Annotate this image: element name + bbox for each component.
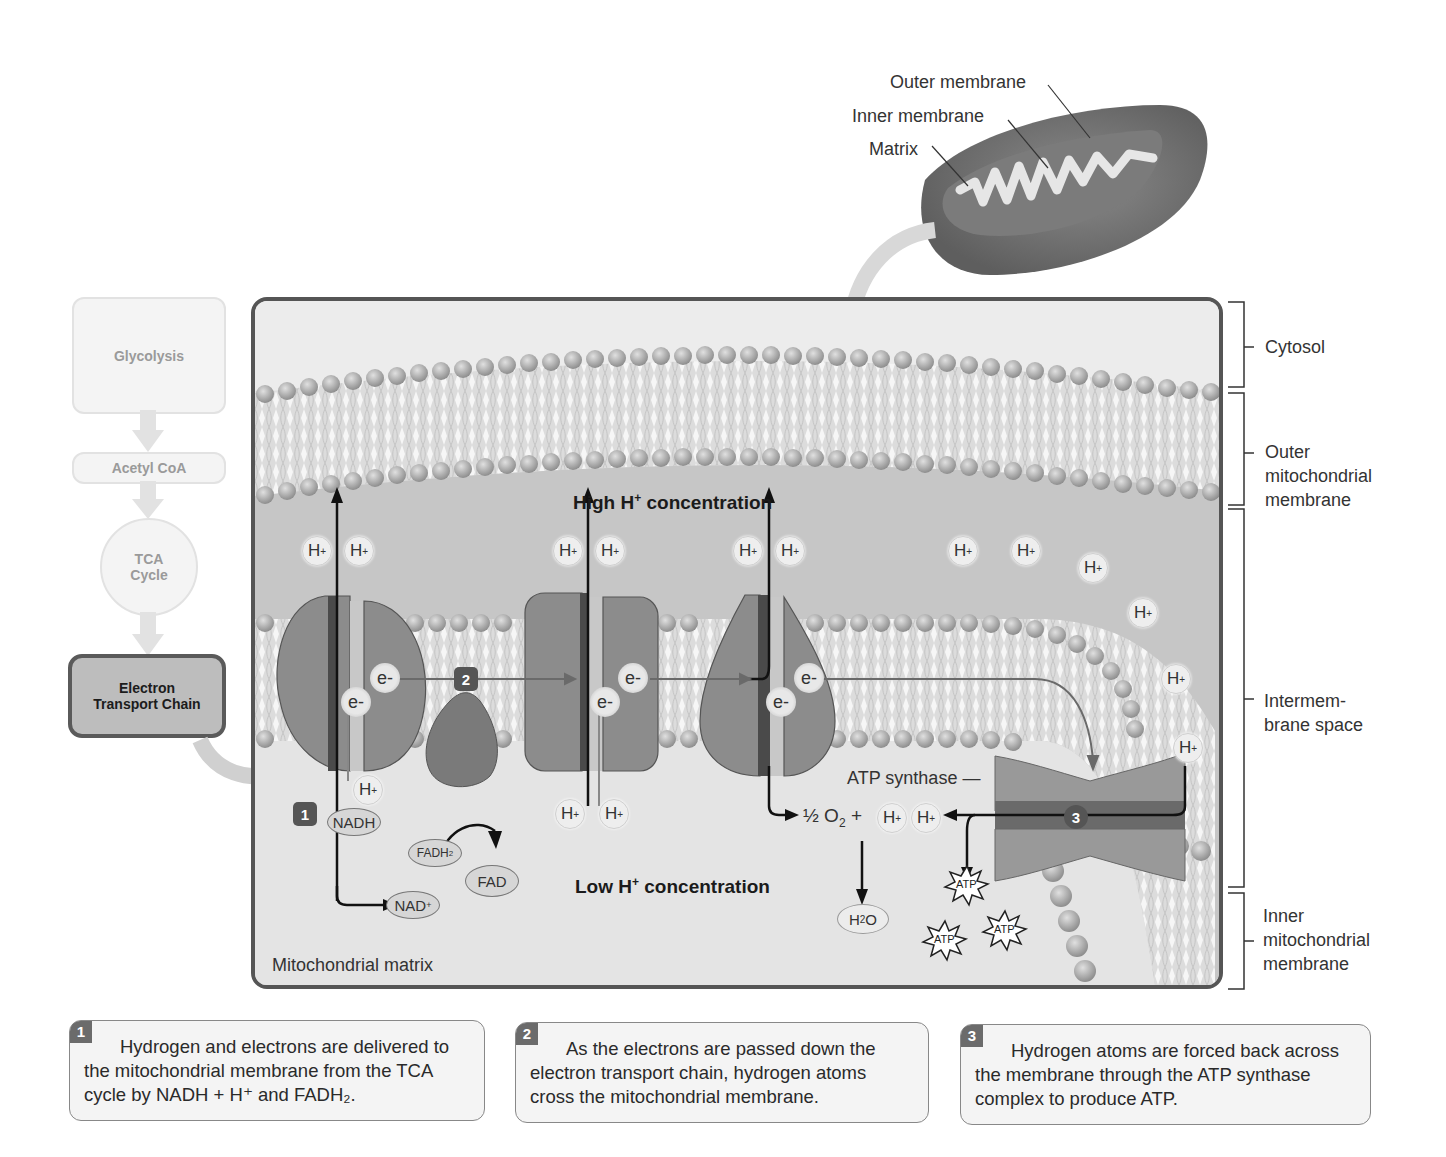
step-2-badge: 2 bbox=[454, 667, 478, 691]
water-molecule: H2O bbox=[837, 904, 889, 934]
electron: e- bbox=[341, 687, 371, 717]
atp-label: ATP bbox=[994, 923, 1015, 935]
proton-ion: H+ bbox=[911, 803, 941, 833]
proton-ion: H+ bbox=[1128, 598, 1158, 628]
electron: e- bbox=[590, 687, 620, 717]
proton-ion: H+ bbox=[555, 799, 585, 829]
proton-ion: H+ bbox=[353, 775, 383, 805]
tca-label-line1: TCA bbox=[135, 551, 164, 567]
inner-mitochondrial-membrane-label: Inner mitochondrial membrane bbox=[1263, 904, 1370, 976]
cytosol-label: Cytosol bbox=[1265, 335, 1325, 359]
electron: e- bbox=[618, 663, 648, 693]
step-3-badge: 3 bbox=[1064, 805, 1088, 829]
mitochondrial-matrix-label: Mitochondrial matrix bbox=[272, 955, 433, 976]
acetyl-coa-box: Acetyl CoA bbox=[72, 452, 226, 484]
region-brackets bbox=[1226, 295, 1256, 995]
caption-text: Hydrogen and electrons are delivered to … bbox=[84, 1035, 470, 1107]
proton-ion: H+ bbox=[775, 536, 805, 566]
proton-ion: H+ bbox=[1173, 733, 1203, 763]
nadh-molecule: NADH bbox=[327, 808, 381, 836]
nad-plus-molecule: NAD+ bbox=[386, 891, 440, 919]
etc-label-line2: Transport Chain bbox=[93, 696, 200, 712]
intermembrane-space-label: Intermem- brane space bbox=[1264, 689, 1363, 737]
caption-step-1: 1 Hydrogen and electrons are delivered t… bbox=[69, 1020, 485, 1121]
acetyl-coa-label: Acetyl CoA bbox=[112, 460, 187, 476]
proton-ion: H+ bbox=[948, 536, 978, 566]
outer-membrane-label: Outer membrane bbox=[890, 72, 1026, 93]
fad-molecule: FAD bbox=[465, 865, 519, 897]
caption-number: 3 bbox=[961, 1025, 983, 1047]
flow-arrow-icon bbox=[132, 481, 164, 519]
glycolysis-label: Glycolysis bbox=[114, 348, 184, 364]
proton-ion: H+ bbox=[877, 803, 907, 833]
etc-label-line1: Electron bbox=[119, 680, 175, 696]
mitochondrion-illustration bbox=[820, 60, 1240, 330]
proton-ion: H+ bbox=[595, 536, 625, 566]
proton-ion: H+ bbox=[344, 536, 374, 566]
electron: e- bbox=[766, 687, 796, 717]
outer-mitochondrial-membrane-label: Outer mitochondrial membrane bbox=[1265, 440, 1372, 512]
atp-synthase-label: ATP synthase — bbox=[847, 768, 980, 789]
high-h-concentration-label: High H+ concentration bbox=[573, 491, 772, 514]
caption-text: Hydrogen atoms are forced back across th… bbox=[975, 1039, 1356, 1111]
matrix-label: Matrix bbox=[869, 139, 918, 160]
tca-label-line2: Cycle bbox=[130, 567, 167, 583]
caption-text: As the electrons are passed down the ele… bbox=[530, 1037, 914, 1109]
electron: e- bbox=[794, 663, 824, 693]
caption-number: 1 bbox=[70, 1021, 92, 1043]
complex-i-protein bbox=[277, 596, 426, 771]
flow-arrow-icon bbox=[132, 410, 164, 452]
atp-label: ATP bbox=[934, 933, 955, 945]
inner-membrane-label: Inner membrane bbox=[852, 106, 984, 127]
flow-arrow-icon bbox=[132, 612, 164, 656]
proton-ion: H+ bbox=[733, 536, 763, 566]
proton-ion: H+ bbox=[599, 799, 629, 829]
oxygen-reaction: ½ O2 + bbox=[803, 805, 862, 830]
electron: e- bbox=[370, 663, 400, 693]
caption-step-3: 3 Hydrogen atoms are forced back across … bbox=[960, 1024, 1371, 1125]
low-h-concentration-label: Low H+ concentration bbox=[575, 875, 770, 898]
proton-ion: H+ bbox=[302, 536, 332, 566]
atp-label: ATP bbox=[956, 878, 977, 890]
caption-step-2: 2 As the electrons are passed down the e… bbox=[515, 1022, 929, 1123]
step-1-badge: 1 bbox=[293, 802, 317, 826]
fadh2-molecule: FADH2 bbox=[408, 839, 462, 867]
tca-cycle-circle: TCA Cycle bbox=[100, 518, 198, 616]
proton-ion: H+ bbox=[1161, 664, 1191, 694]
proton-ion: H+ bbox=[1078, 553, 1108, 583]
caption-number: 2 bbox=[516, 1023, 538, 1045]
electron-transport-chain-box: Electron Transport Chain bbox=[68, 654, 226, 738]
glycolysis-box: Glycolysis bbox=[72, 297, 226, 414]
proton-ion: H+ bbox=[1011, 536, 1041, 566]
membrane-diagram-frame: High H+ concentration Low H+ concentrati… bbox=[251, 297, 1223, 989]
proton-ion: H+ bbox=[553, 536, 583, 566]
